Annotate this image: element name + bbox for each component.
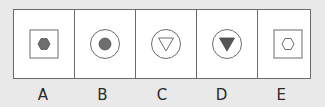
option-d-cell[interactable] xyxy=(197,10,258,78)
circle-with-filled-dot-icon xyxy=(75,10,135,78)
square-with-filled-hexagon-icon xyxy=(14,10,74,78)
option-label-c: C xyxy=(132,86,192,104)
option-c-cell[interactable] xyxy=(136,10,197,78)
option-label-b: B xyxy=(73,86,133,104)
circle-with-outline-triangle-icon xyxy=(136,10,196,78)
circle-with-filled-triangle-icon xyxy=(197,10,257,78)
square-with-outline-hexagon-icon xyxy=(258,10,318,78)
option-labels: A B C D E xyxy=(13,86,311,104)
option-b-cell[interactable] xyxy=(75,10,136,78)
option-label-a: A xyxy=(13,86,73,104)
option-label-d: D xyxy=(192,86,252,104)
option-e-cell[interactable] xyxy=(258,10,318,78)
option-a-cell[interactable] xyxy=(14,10,75,78)
option-label-e: E xyxy=(251,86,311,104)
options-strip xyxy=(13,9,311,79)
